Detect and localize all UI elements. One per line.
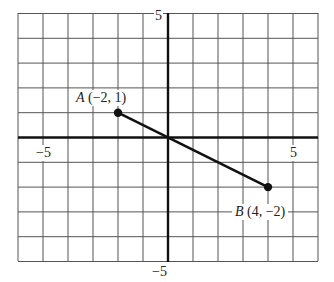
y-tick-neg5: −5 — [151, 264, 168, 280]
point-a-label: A (−2, 1) — [73, 90, 129, 106]
point-a-coords: (−2, 1) — [88, 90, 126, 105]
y-tick-pos5: 5 — [154, 8, 163, 24]
point-a-name: A — [76, 90, 85, 105]
x-tick-pos5: 5 — [289, 145, 298, 161]
coordinate-plane — [0, 0, 334, 282]
x-tick-neg5: −5 — [35, 145, 52, 161]
point-b — [264, 183, 272, 191]
point-b-name: B — [235, 204, 244, 219]
point-b-label: B (4, −2) — [232, 204, 288, 220]
point-b-coords: (4, −2) — [247, 204, 285, 219]
point-a — [114, 109, 122, 117]
